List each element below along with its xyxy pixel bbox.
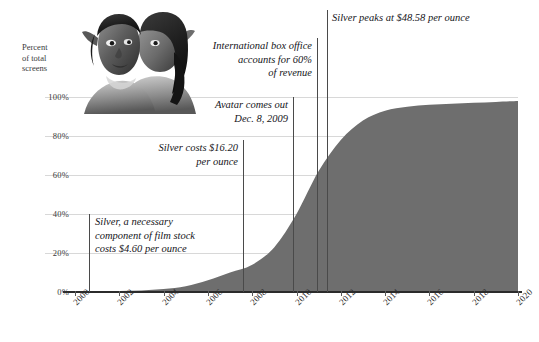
annotation-line-avatar-release	[293, 97, 294, 292]
annotation-line-international-box-office	[317, 38, 318, 292]
y-axis-tick-60: 60%	[53, 170, 69, 180]
y-axis-title-line-3: screens	[22, 63, 78, 74]
annotation-line-silver-16-20	[243, 140, 244, 292]
y-axis-title-line-2: of total	[22, 53, 78, 64]
y-axis-tick-40: 40%	[53, 209, 69, 219]
y-axis-tick-80: 80%	[53, 131, 69, 141]
plot-area	[75, 97, 518, 292]
annotation-text-silver-peak-48-58: Silver peaks at $48.58 per ounce	[332, 11, 532, 25]
area-series-digital-screens	[75, 97, 518, 293]
chart-figure: Percent of total screens 0%20%40%60%80%1…	[0, 0, 539, 342]
y-axis-tick-100: 100%	[48, 92, 69, 102]
y-axis-tick-20: 20%	[53, 248, 69, 258]
annotation-line-silver-4-60	[89, 214, 90, 292]
y-axis-title-line-1: Percent	[22, 42, 78, 53]
annotation-line-silver-peak-48-58	[327, 10, 328, 292]
y-axis-tick-0: 0%	[57, 287, 69, 297]
annotation-text-silver-16-20: Silver costs $16.20 per ounce	[98, 141, 238, 168]
y-axis-title: Percent of total screens	[22, 42, 78, 74]
annotation-text-silver-4-60: Silver, a necessary component of film st…	[95, 215, 240, 256]
avatar-movie-still-image	[78, 12, 198, 117]
